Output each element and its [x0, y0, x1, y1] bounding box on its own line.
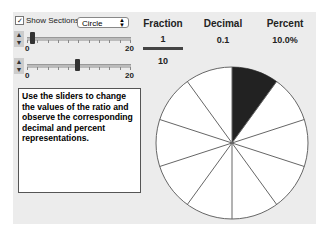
fraction-circle: [0, 0, 325, 236]
